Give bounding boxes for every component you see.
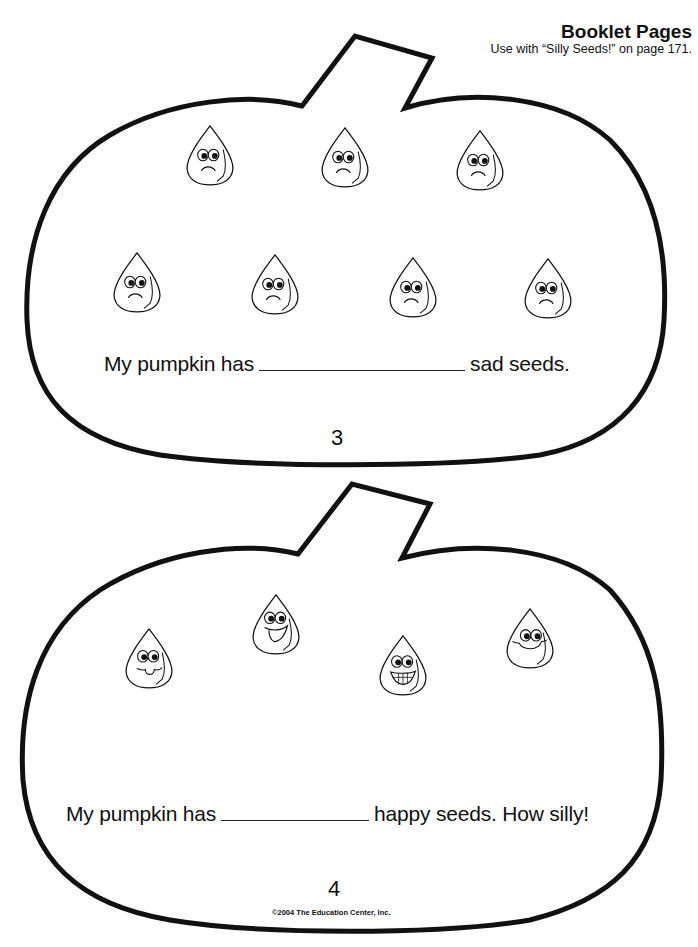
sad-seed bbox=[252, 255, 298, 314]
happy-seed bbox=[380, 636, 426, 695]
sentence-prefix: My pumpkin has bbox=[66, 802, 216, 825]
happy-seed bbox=[253, 595, 299, 654]
page-number: 3 bbox=[331, 425, 343, 451]
sentence-prefix: My pumpkin has bbox=[104, 352, 254, 375]
sad-seed bbox=[457, 131, 503, 190]
sad-seed bbox=[525, 259, 571, 318]
sad-seed bbox=[390, 258, 436, 317]
pumpkin-outline-top bbox=[27, 36, 665, 465]
page-number: 4 bbox=[328, 876, 340, 902]
happy-seed bbox=[126, 629, 172, 688]
page-4-sentence: My pumpkin hashappy seeds. How silly! bbox=[66, 802, 589, 826]
pumpkin-outline-bottom bbox=[22, 484, 661, 931]
sad-seed bbox=[322, 128, 368, 187]
sentence-suffix: happy seeds. How silly! bbox=[374, 802, 589, 825]
answer-blank[interactable] bbox=[259, 352, 465, 371]
sad-seed bbox=[114, 253, 160, 312]
sad-seed bbox=[187, 126, 233, 185]
sentence-suffix: sad seeds. bbox=[470, 352, 570, 375]
happy-seed bbox=[507, 609, 553, 668]
page-3-sentence: My pumpkin hassad seeds. bbox=[104, 352, 570, 376]
copyright-notice: ©2004 The Education Center, Inc. bbox=[272, 908, 390, 917]
answer-blank[interactable] bbox=[221, 802, 369, 821]
